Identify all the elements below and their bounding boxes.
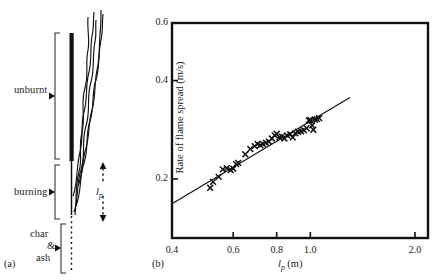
y-axis-label: Rate of flame spread (m/s) (174, 43, 185, 193)
bracket-char-ash (61, 224, 66, 273)
lp-subscript: p (99, 191, 103, 200)
fuel-strip-icon (70, 33, 74, 161)
panel-b-caption: (b) (152, 258, 164, 269)
zone-label-burning: burning (14, 186, 47, 197)
lp-dimension-label: lp (96, 186, 103, 200)
x-tick-label: 2.0 (405, 244, 425, 255)
panel-a-flame-spread-diagram: unburnt burning char & ash lp (a) (0, 0, 150, 280)
zone-label-ampersand: & (47, 240, 55, 251)
arrow-burning-icon (49, 189, 55, 196)
x-axis-label: lp (m) (278, 258, 302, 272)
x-tick-label: 0.8 (267, 244, 287, 255)
arrow-char-ash-icon (55, 245, 61, 252)
arrow-unburnt-icon (49, 93, 55, 100)
x-tick-label: 0.6 (223, 244, 243, 255)
x-tick-label: 1.0 (300, 244, 320, 255)
zone-label-char: char (30, 228, 48, 239)
zone-label-unburnt: unburnt (14, 84, 47, 95)
panel-a-caption: (a) (4, 258, 15, 269)
panel-a-drawing (0, 0, 150, 280)
figure-root: unburnt burning char & ash lp (a) Rate o… (0, 0, 444, 280)
bracket-unburnt (55, 33, 60, 159)
zone-brackets (55, 33, 66, 273)
bracket-burning (55, 165, 60, 219)
y-tick-label: 0.6 (150, 16, 168, 27)
x-axis-unit-text: (m) (287, 258, 302, 269)
x-tick-label: 0.4 (162, 244, 182, 255)
flame-outline-icon (73, 10, 103, 215)
zone-label-ash: ash (36, 252, 50, 263)
lp-arrow-up-icon (100, 162, 107, 169)
y-tick-label: 0.4 (150, 74, 168, 85)
y-tick-label: 0.2 (150, 172, 168, 183)
chart-plot-area (150, 0, 444, 280)
lp-arrow-down-icon (100, 215, 107, 222)
panel-b-scatter-chart: Rate of flame spread (m/s) lp (m) (b) 0.… (150, 0, 444, 280)
